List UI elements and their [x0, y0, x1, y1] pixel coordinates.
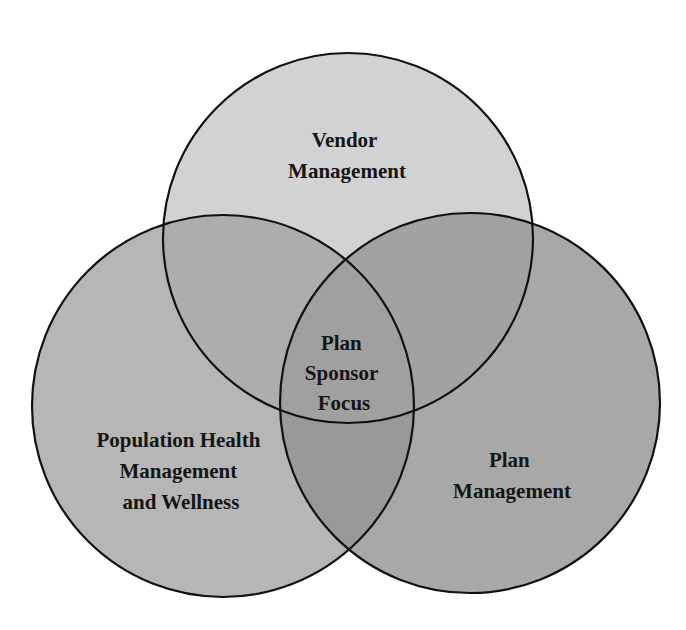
venn-diagram: Vendor Management Plan Sponsor Focus Pop… [0, 0, 686, 630]
